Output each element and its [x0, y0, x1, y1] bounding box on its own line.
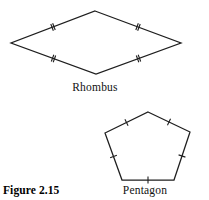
pentagon-shape [105, 112, 190, 184]
geometry-diagram [0, 0, 209, 200]
figure-container: Rhombus Pentagon Figure 2.15 [0, 0, 209, 200]
rhombus-label: Rhombus [0, 81, 190, 93]
rhombus-shape [11, 11, 181, 74]
pentagon-outline [105, 112, 190, 180]
pentagon-tick-marks [110, 119, 185, 184]
figure-caption: Figure 2.15 [3, 184, 59, 196]
rhombus-tick-marks [51, 23, 141, 62]
pentagon-label: Pentagon [101, 184, 189, 196]
rhombus-outline [11, 11, 181, 74]
